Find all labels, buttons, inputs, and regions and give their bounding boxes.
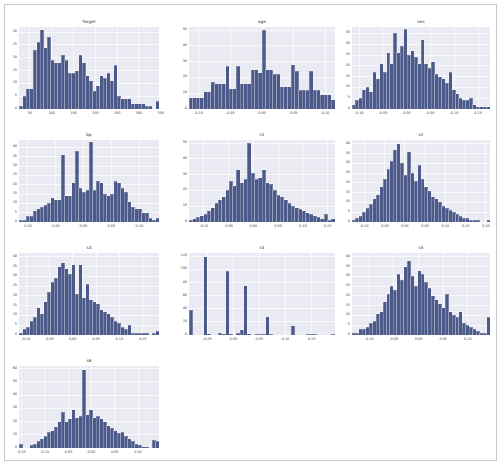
- y-tick-label: 10: [338, 201, 350, 204]
- y-tick-label: 40: [338, 142, 350, 145]
- panel-title: s4: [189, 245, 335, 251]
- y-tick-label: 40: [175, 307, 187, 310]
- y-tick-label: 30: [5, 164, 17, 167]
- histogram-panel-s4: s4020406080100120-0.050.000.050.100.15: [175, 245, 337, 345]
- x-tick-label: 0.00: [221, 337, 245, 341]
- y-tick-label: 35: [338, 265, 350, 268]
- plot-area: [189, 27, 335, 109]
- x-tick-label: 0.05: [99, 224, 123, 228]
- x-tick-label: 0.05: [247, 337, 271, 341]
- x-tick-label: -0.10: [192, 224, 216, 228]
- x-tick-label: 0.15: [316, 224, 340, 228]
- y-tick-label: 15: [338, 304, 350, 307]
- x-tick-label: 300: [127, 111, 151, 115]
- y-tick-label: 15: [5, 69, 17, 72]
- x-tick-label: 0.10: [107, 337, 131, 341]
- y-tick-label: 35: [338, 152, 350, 155]
- y-tick-label: 20: [338, 181, 350, 184]
- y-tick-label: 20: [175, 320, 187, 323]
- y-tick-label: 40: [5, 255, 17, 258]
- x-tick-label: 150: [62, 111, 86, 115]
- panel-title: bp: [19, 132, 159, 138]
- x-tick-label: 0.10: [313, 111, 337, 115]
- x-tick-label: 0.00: [71, 224, 95, 228]
- y-tick-label: 30: [338, 162, 350, 165]
- x-tick-label: -0.05: [371, 111, 395, 115]
- y-tick-label: 40: [175, 44, 187, 47]
- y-tick-label: 35: [5, 155, 17, 158]
- plot-area: [352, 253, 490, 335]
- y-tick-label: 5: [5, 211, 17, 214]
- x-tick-label: -0.05: [56, 450, 80, 454]
- x-tick-label: 0.10: [127, 224, 151, 228]
- y-tick-label: 25: [338, 53, 350, 56]
- histogram-panel-s2: s20510152025303540-0.10-0.050.000.050.10…: [338, 132, 492, 232]
- y-tick-label: 20: [5, 183, 17, 186]
- y-tick-label: 0: [338, 220, 350, 223]
- y-tick-label: 0: [175, 220, 187, 223]
- y-tick-label: 10: [5, 202, 17, 205]
- x-tick-label: -0.10: [347, 111, 371, 115]
- x-tick-label: 0.00: [407, 337, 431, 341]
- x-tick-label: -0.15: [9, 450, 33, 454]
- y-tick-label: 50: [5, 380, 17, 383]
- x-tick-label: 50: [18, 111, 42, 115]
- panel-title: s1: [189, 132, 335, 138]
- histogram-grid: Target05101520253050100150200250300350ag…: [5, 5, 496, 460]
- y-tick-label: 20: [175, 189, 187, 192]
- x-tick-label: 0.05: [266, 224, 290, 228]
- y-tick-label: 5: [338, 211, 350, 214]
- plot-area: [19, 27, 159, 109]
- x-tick-label: 0.05: [282, 111, 306, 115]
- x-tick-label: 0.00: [250, 111, 274, 115]
- y-tick-label: 5: [5, 324, 17, 327]
- x-tick-label: -0.10: [357, 337, 381, 341]
- y-tick-label: 30: [5, 275, 17, 278]
- y-tick-label: 25: [5, 43, 17, 46]
- histogram-panel-s1: s101020304050-0.10-0.050.000.050.100.15: [175, 132, 337, 232]
- x-tick-label: 350: [149, 111, 173, 115]
- y-tick-label: 10: [5, 82, 17, 85]
- plot-area: [19, 140, 159, 222]
- y-tick-label: 15: [5, 304, 17, 307]
- y-tick-label: 15: [5, 192, 17, 195]
- y-tick-label: 35: [5, 265, 17, 268]
- y-tick-label: 30: [338, 43, 350, 46]
- panel-title: age: [189, 19, 335, 25]
- y-tick-label: 10: [338, 314, 350, 317]
- y-tick-label: 25: [5, 284, 17, 287]
- x-tick-label: 0.10: [126, 450, 150, 454]
- x-tick-label: 0.00: [241, 224, 265, 228]
- x-tick-label: 0.05: [431, 337, 455, 341]
- plot-area: [189, 253, 335, 335]
- y-tick-label: 80: [175, 281, 187, 284]
- y-tick-label: 20: [5, 294, 17, 297]
- x-tick-label: 0.10: [291, 224, 315, 228]
- y-tick-label: 15: [338, 75, 350, 78]
- x-tick-label: 100: [40, 111, 64, 115]
- x-tick-label: 0.05: [419, 111, 443, 115]
- x-tick-label: 0.15: [466, 111, 490, 115]
- y-tick-label: 20: [175, 76, 187, 79]
- x-tick-label: -0.05: [37, 337, 61, 341]
- histogram-panel-s5: s50510152025303540-0.10-0.050.000.050.10: [338, 245, 492, 345]
- x-tick-label: 0.15: [131, 337, 155, 341]
- y-tick-label: 60: [5, 367, 17, 370]
- y-tick-label: 20: [338, 64, 350, 67]
- plot-area: [189, 140, 335, 222]
- y-tick-label: 10: [5, 433, 17, 436]
- histogram-panel-bp: bp0510152025303540-0.10-0.050.000.050.10: [5, 132, 161, 232]
- y-tick-label: 30: [5, 30, 17, 33]
- y-tick-label: 50: [175, 28, 187, 31]
- y-tick-label: 10: [338, 86, 350, 89]
- x-tick-label: -0.10: [33, 450, 57, 454]
- x-tick-label: 0.10: [456, 337, 480, 341]
- y-tick-label: 30: [175, 60, 187, 63]
- histogram-panel-s3: s30510152025303540-0.10-0.050.000.050.10…: [5, 245, 161, 345]
- x-tick-label: 0.10: [442, 111, 466, 115]
- y-tick-label: 25: [338, 171, 350, 174]
- x-tick-label: 0.05: [103, 450, 127, 454]
- y-tick-label: 0: [175, 333, 187, 336]
- y-tick-label: 60: [175, 294, 187, 297]
- y-tick-label: 0: [338, 333, 350, 336]
